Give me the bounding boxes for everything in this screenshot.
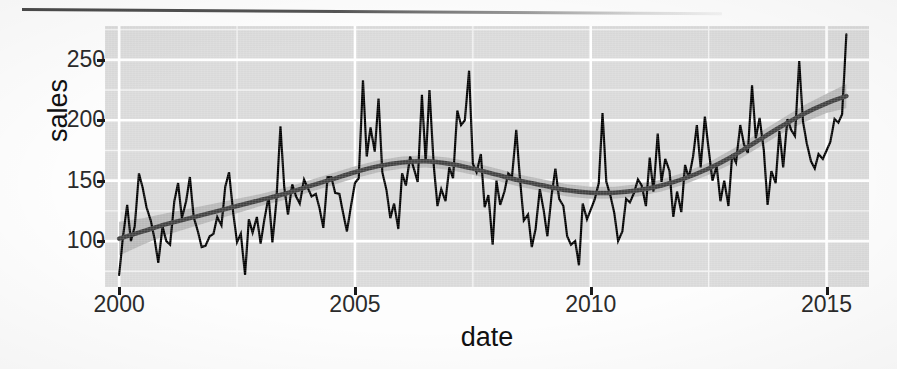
x-tick-mark [354,287,357,295]
x-tick-label: 2000 [64,293,174,316]
major-gridlines [105,26,869,287]
x-axis-title: date [105,322,869,353]
y-axis-title: sales [43,51,74,171]
chart-figure: 100150200250 2000200520102015 sales date [0,0,897,369]
x-tick-mark [118,287,121,295]
x-tick-label: 2005 [300,293,410,316]
x-tick-label: 2010 [536,293,646,316]
x-tick-label: 2015 [772,293,882,316]
plot-svg [105,26,869,287]
plot-panel [105,26,869,287]
minor-gridlines [105,26,869,287]
x-tick-mark [590,287,593,295]
x-tick-mark [826,287,829,295]
